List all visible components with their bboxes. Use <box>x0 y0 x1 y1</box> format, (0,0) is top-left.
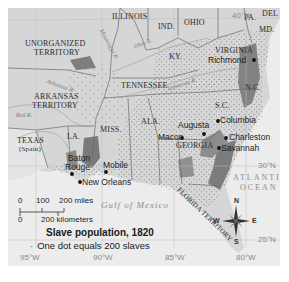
label-indiana: IND. <box>158 22 175 31</box>
label-maryland: MD. <box>259 25 275 34</box>
label-louisiana: LA. <box>67 132 80 141</box>
label-lat-40n: 40°N <box>232 11 250 20</box>
city-charleston: Charleston <box>229 132 270 142</box>
scale-miles-0: 0 <box>18 196 22 205</box>
label-tennessee: TENNESSEE <box>121 81 168 90</box>
city-macon: Macon <box>158 132 184 142</box>
label-texas: TEXAS <box>17 136 44 145</box>
label-ohio: OHIO <box>184 18 205 27</box>
label-red-river: Red R. <box>16 112 32 118</box>
label-south-carolina: S.C. <box>215 101 230 110</box>
label-illinois: ILLINOIS <box>112 12 147 21</box>
label-texas-spain: (Spain) <box>19 145 41 153</box>
scale-miles-200: 200 miles <box>59 196 93 205</box>
city-augusta: Augusta <box>178 120 209 130</box>
label-lon-90w: 90°W <box>93 253 113 262</box>
label-arkansas-territory-line2: TERRITORY <box>32 101 78 110</box>
city-savannah: Savannah <box>221 143 259 153</box>
compass-w: W <box>213 217 220 224</box>
city-mobile: Mobile <box>103 160 128 170</box>
label-lat-25n: 25°N <box>258 235 276 244</box>
label-unorganized-territory: UNORGANIZED <box>25 39 85 48</box>
legend-dot-icon: · <box>30 240 33 251</box>
city-baton-rouge-line2: Rouge <box>65 162 90 172</box>
label-atlantic-ocean-line2: OCEAN <box>240 183 278 192</box>
label-delaware: DEL <box>262 9 278 18</box>
scale-miles-100: 100 <box>36 196 49 205</box>
label-lon-95w: 95°W <box>20 253 40 262</box>
legend-note: ·One dot equals 200 slaves <box>30 240 150 251</box>
label-lon-85w: 85°W <box>165 253 185 262</box>
legend-note-text: One dot equals 200 slaves <box>37 240 150 251</box>
scale-km-0: 0 <box>18 215 22 224</box>
label-virginia: VIRGINIA <box>215 46 253 55</box>
slave-population-map: ILLINOIS IND. OHIO PA. DEL MD. VIRGINIA … <box>8 8 280 266</box>
compass-s: S <box>234 238 239 245</box>
label-north-carolina: N.C. <box>245 83 261 92</box>
city-richmond: Richmond <box>208 55 246 65</box>
label-unorganized-territory-line2: TERRITORY <box>34 48 80 57</box>
city-columbia: Columbia <box>220 115 256 125</box>
label-gulf-of-mexico: Gulf of Mexico <box>101 200 169 210</box>
compass-e: E <box>252 217 257 224</box>
label-alabama: ALA. <box>141 117 160 126</box>
compass-n: N <box>234 197 239 204</box>
label-kentucky: KY. <box>169 52 182 61</box>
label-atlantic-ocean: ATLANTIC <box>233 173 280 182</box>
city-new-orleans: New Orleans <box>82 177 131 187</box>
label-mississippi: MISS. <box>100 125 122 134</box>
label-lat-30n: 30°N <box>258 161 276 170</box>
label-georgia: GEORGIA <box>176 141 213 150</box>
scale-km-200: 200 kilometers <box>41 215 93 224</box>
label-lon-80w: 80°W <box>236 253 256 262</box>
legend-title: Slave population, 1820 <box>46 227 154 238</box>
